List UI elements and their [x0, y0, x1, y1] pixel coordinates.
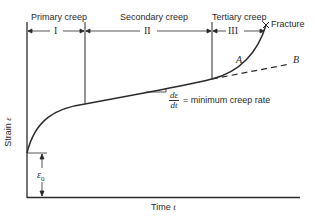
stage-numeral-primary: I [54, 25, 57, 36]
creep-diagram-graphics [0, 0, 315, 217]
y-axis-symbol: ε [3, 117, 13, 121]
slope-fraction: dε dt [169, 91, 179, 110]
curve-label-b: B [293, 54, 299, 65]
stage-label-secondary: Secondary creep [120, 12, 188, 22]
initial-strain-subscript: 0 [41, 175, 45, 183]
creep-curve-a [27, 25, 266, 153]
curve-label-a: A [236, 54, 242, 65]
slope-annotation-text: = minimum creep rate [183, 95, 270, 105]
stage-label-primary: Primary creep [31, 12, 87, 22]
slope-denominator: dt [171, 100, 178, 110]
initial-strain-label: ε0 [37, 169, 44, 183]
stage-numeral-secondary: II [144, 25, 151, 36]
x-axis-symbol: t [173, 202, 176, 212]
curve-b-dashed [212, 64, 290, 79]
y-axis-label: Strain ε [3, 117, 13, 147]
x-axis-label: Time t [151, 202, 176, 212]
stage-numeral-tertiary: III [228, 25, 238, 36]
stage-label-tertiary: Tertiary creep [212, 12, 267, 22]
y-axis-text: Strain [3, 123, 13, 147]
x-axis-text: Time [151, 202, 171, 212]
fracture-label: Fracture [271, 19, 305, 29]
